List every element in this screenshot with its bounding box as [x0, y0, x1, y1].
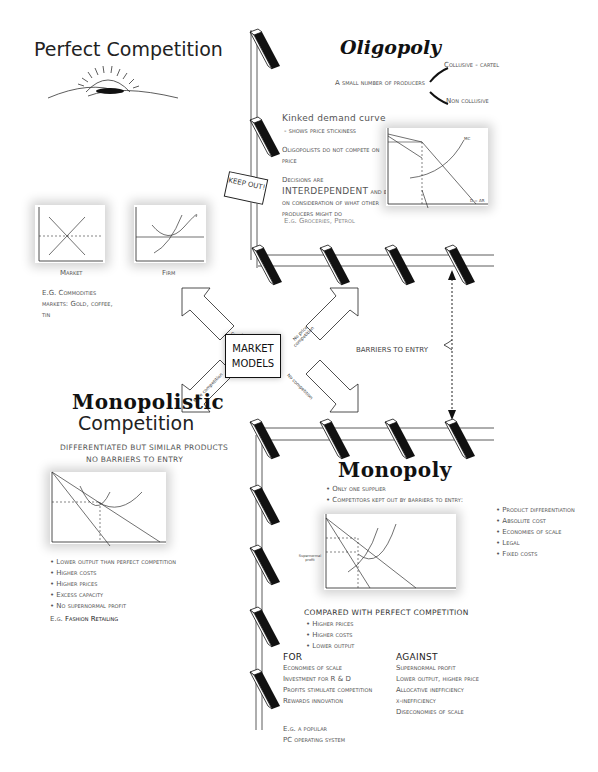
compared-item: Higher costs	[306, 630, 354, 641]
arrow-bottom-right	[306, 360, 358, 412]
barrier-type: Legal	[496, 538, 575, 549]
monopoly-title: Monopoly	[338, 458, 452, 482]
for-heading: FOR	[283, 652, 302, 662]
perfect-competition-title: Perfect Competition	[34, 38, 223, 60]
monopolistic-bullet: Excess capacity	[50, 590, 176, 601]
monopoly-example-line2: PC operating system	[283, 735, 345, 746]
monopolistic-sub1: DIFFERENTIATED BUT SIMILAR PRODUCTS	[60, 443, 228, 452]
for-item: Profits stimulate competition	[283, 685, 372, 696]
for-item: Investment for R & D	[283, 674, 372, 685]
barrier-type: Economies of scale	[496, 527, 575, 538]
monopolistic-bullet: Higher costs	[50, 568, 176, 579]
kinked-demand-heading: Kinked demand curve	[282, 113, 386, 123]
monopoly-bullet: Only one supplier	[326, 484, 463, 495]
interdependent-text: INTERDEPENDENT	[282, 186, 368, 196]
compared-list: Higher prices Higher costs Lower output	[306, 619, 354, 652]
monopolistic-bullet: Higher prices	[50, 579, 176, 590]
against-item: Allocative inefficiency	[396, 685, 479, 696]
oligopoly-title: Oligopoly	[340, 36, 441, 58]
firm-chart	[134, 205, 206, 263]
arrow-top-right	[306, 288, 358, 340]
monopoly-bullets: Only one supplier Competitors kept out b…	[326, 484, 463, 506]
example-prefix: E.g.	[50, 615, 63, 623]
kinked-demand-sub: - shows price stickiness	[284, 126, 356, 137]
barrier-type: Product differentiation	[496, 505, 575, 516]
example-value: Fashion Retailing	[65, 615, 118, 623]
barrier-type: Fixed costs	[496, 549, 575, 560]
for-item: Economies of scale	[283, 663, 372, 674]
monopolistic-bullets: Lower output than perfect competition Hi…	[50, 557, 176, 612]
monopolistic-example: E.g. Fashion Retailing	[50, 614, 118, 625]
compared-item: Higher prices	[306, 619, 354, 630]
oligopoly-example: E.g. Groceries, Petrol	[284, 216, 355, 227]
against-heading: AGAINST	[396, 652, 438, 662]
against-item: Diseconomies of scale	[396, 707, 479, 718]
svg-text:D = AR: D = AR	[470, 198, 485, 203]
branch-non-collusive: Non collusive	[446, 96, 489, 107]
against-item: x-inefficiency	[396, 696, 479, 707]
for-item: Rewards innovation	[283, 696, 372, 707]
oligopoly-point-decisions: Decisions are INTERDEPENDENT and based o…	[282, 175, 402, 220]
monopolistic-sub2: NO BARRIERS TO ENTRY	[86, 455, 183, 464]
monopolistic-chart	[50, 472, 166, 544]
against-item: Supernormal profit	[396, 663, 479, 674]
monopolistic-title-line1: Monopolistic	[72, 390, 224, 414]
monopoly-chart	[324, 514, 456, 590]
svg-text:MC: MC	[464, 136, 470, 141]
arrow-top-left	[182, 288, 234, 340]
for-list: Economies of scale Investment for R & D …	[283, 663, 372, 707]
monopolistic-bullet: Lower output than perfect competition	[50, 557, 176, 568]
oligopoly-definition: A small number of producers	[335, 78, 425, 89]
branch-collusive: Collusive - cartel	[444, 60, 499, 71]
monopolistic-title-line2: Competition	[78, 412, 194, 434]
monopoly-example-line1: E.g. a popular	[283, 724, 345, 735]
market-models-line1: MARKET	[226, 341, 280, 356]
oligopoly-point-compete: Oligopolists do not compete on price	[282, 145, 392, 167]
supernormal-profit-label: Supernormal profit	[298, 554, 322, 562]
kinked-demand-chart: MC D = AR	[386, 128, 488, 206]
market-models-line2: MODELS	[226, 356, 280, 371]
barriers-to-entry-label: BARRIERS TO ENTRY	[356, 345, 428, 356]
monopoly-example: E.g. a popular PC operating system	[283, 724, 345, 746]
barrier-type: Absolute cost	[496, 516, 575, 527]
market-models-box: MARKET MODELS	[225, 334, 281, 378]
against-item: Lower output, higher price	[396, 674, 479, 685]
compared-heading: COMPARED WITH PERFECT COMPETITION	[304, 608, 469, 617]
decisions-text: Decisions are	[282, 176, 323, 184]
barrier-types-list: Product differentiation Absolute cost Ec…	[496, 505, 575, 560]
market-caption: Market	[60, 268, 82, 279]
against-list: Supernormal profit Lower output, higher …	[396, 663, 479, 718]
monopolistic-bullet: No supernormal profit	[50, 601, 176, 612]
market-chart	[35, 205, 105, 263]
monopoly-bullet: Competitors kept out by barriers to entr…	[326, 495, 463, 506]
perfect-competition-example: E.G. Commodities markets: Gold, coffee, …	[42, 288, 122, 321]
compared-item: Lower output	[306, 641, 354, 652]
